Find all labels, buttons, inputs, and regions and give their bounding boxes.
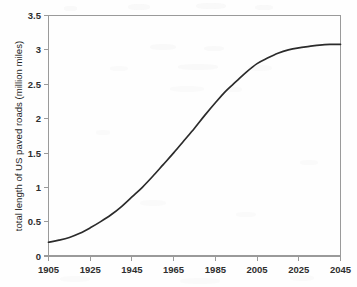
data-series-line	[49, 44, 341, 242]
y-axis-tick-labels: 3.5 3 2.5 2 1.5 1 0.5 0	[28, 10, 42, 262]
y-axis-title: total length of US paved roads (million …	[13, 41, 24, 231]
y-axis-ticks	[44, 16, 49, 257]
y-tick-label: 3.5	[28, 10, 42, 21]
x-tick-label: 1905	[38, 264, 60, 275]
x-tick-label: 2045	[330, 264, 352, 275]
x-tick-label: 1925	[80, 264, 102, 275]
plot-frame	[49, 16, 341, 257]
y-tick-label: 0.5	[28, 216, 42, 227]
x-tick-label: 2005	[247, 264, 269, 275]
x-tick-label: 1945	[121, 264, 143, 275]
x-tick-label: 2025	[288, 264, 310, 275]
x-tick-label: 1965	[163, 264, 185, 275]
x-axis-ticks	[49, 256, 341, 261]
y-tick-label: 1.5	[28, 148, 42, 159]
y-tick-label: 2.5	[28, 79, 42, 90]
x-axis-tick-labels: 1905 1925 1945 1965 1985 2005 2025 2045	[38, 264, 352, 275]
chart-figure: 3.5 3 2.5 2 1.5 1 0.5 0 1905 1925 1945 1…	[0, 0, 357, 287]
y-tick-label: 3	[36, 44, 41, 55]
line-chart-plot: 3.5 3 2.5 2 1.5 1 0.5 0 1905 1925 1945 1…	[0, 0, 357, 287]
y-tick-label: 2	[36, 113, 41, 124]
y-tick-label: 0	[36, 251, 41, 262]
y-tick-label: 1	[36, 182, 42, 193]
x-tick-label: 1985	[205, 264, 227, 275]
